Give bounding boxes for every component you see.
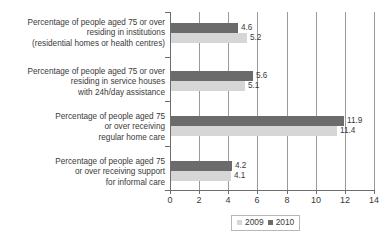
x-tick-14	[374, 190, 375, 194]
y-tick-0	[165, 12, 170, 13]
gridline-10	[316, 12, 317, 190]
x-tick-label-14: 14	[362, 195, 386, 206]
bar-value-2010-home-care: 11.9	[347, 116, 362, 126]
y-tick-1	[165, 57, 170, 58]
bar-2010-informal-care	[171, 161, 232, 171]
x-tick-6	[257, 190, 258, 194]
legend-item-2009[interactable]: 2009	[237, 217, 264, 228]
category-label-institutions: Percentage of people aged 75 or over res…	[5, 18, 165, 49]
x-tick-label-8: 8	[275, 195, 299, 206]
bar-value-2010-institutions: 4.6	[241, 23, 252, 33]
bar-2009-home-care	[171, 126, 337, 136]
bar-value-2010-informal-care: 4.2	[235, 161, 246, 171]
x-tick-12	[345, 190, 346, 194]
bar-value-2010-service-houses: 5.6	[256, 71, 267, 81]
x-tick-label-10: 10	[304, 195, 328, 206]
bar-chart: 0 2 4 6 8 10 12 14 Percentage of people …	[0, 0, 389, 241]
bar-2010-home-care	[171, 116, 344, 126]
bar-2009-informal-care	[171, 171, 231, 181]
bar-value-2009-home-care: 11.4	[340, 126, 355, 136]
gridline-12	[345, 12, 346, 190]
legend-item-2010[interactable]: 2010	[268, 217, 295, 228]
gridline-8	[287, 12, 288, 190]
x-tick-label-2: 2	[187, 195, 211, 206]
x-tick-2	[199, 190, 200, 194]
x-tick-10	[316, 190, 317, 194]
bar-2009-institutions	[171, 33, 247, 43]
x-tick-label-0: 0	[158, 195, 182, 206]
x-tick-4	[228, 190, 229, 194]
x-tick-label-12: 12	[333, 195, 357, 206]
y-tick-3	[165, 146, 170, 147]
bar-2010-service-houses	[171, 71, 253, 81]
bar-2010-institutions	[171, 23, 238, 33]
legend-label-2009: 2009	[245, 217, 264, 228]
x-tick-label-6: 6	[245, 195, 269, 206]
x-tick-label-4: 4	[216, 195, 240, 206]
y-tick-2	[165, 101, 170, 102]
legend: 2009 2010	[231, 215, 300, 231]
gridline-14	[374, 12, 375, 190]
category-label-informal-care: Percentage of people aged 75 or over rec…	[5, 157, 165, 188]
legend-swatch-icon-2009	[237, 220, 242, 225]
legend-swatch-icon-2010	[268, 220, 273, 225]
x-tick-8	[287, 190, 288, 194]
bar-2009-service-houses	[171, 81, 245, 91]
bar-value-2009-informal-care: 4.1	[234, 171, 245, 181]
category-label-home-care: Percentage of people aged 75 or over rec…	[5, 112, 165, 143]
legend-label-2010: 2010	[276, 217, 295, 228]
bar-value-2009-service-houses: 5.1	[248, 81, 259, 91]
x-tick-0	[170, 190, 171, 194]
bar-value-2009-institutions: 5.2	[250, 33, 261, 43]
category-label-service-houses: Percentage of people aged 75 or over res…	[5, 67, 165, 98]
